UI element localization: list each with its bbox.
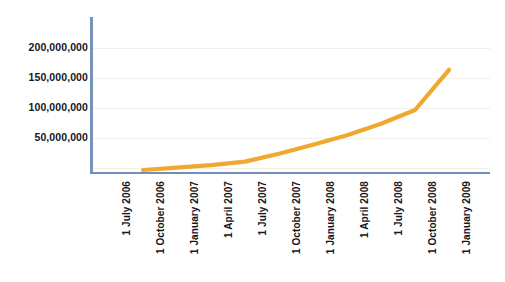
x-tick-label: 1 October 2008 [428, 181, 438, 254]
x-tick-label: 1 October 2006 [156, 181, 166, 254]
x-tick-label: 1 January 2008 [326, 181, 336, 254]
x-tick-label: 1 January 2007 [190, 181, 200, 254]
x-axis-tick-labels: 1 July 2006 1 October 2006 1 January 200… [0, 0, 505, 282]
x-tick-label: 1 July 2006 [122, 181, 132, 235]
line-chart: 200,000,000 150,000,000 100,000,000 50,0… [0, 0, 505, 282]
x-tick-label: 1 January 2009 [462, 181, 472, 254]
x-tick-label: 1 July 2007 [258, 181, 268, 235]
x-tick-label: 1 October 2007 [292, 181, 302, 254]
x-tick-label: 1 July 2008 [394, 181, 404, 235]
x-tick-label: 1 April 2007 [224, 181, 234, 238]
x-tick-label: 1 April 2008 [360, 181, 370, 238]
